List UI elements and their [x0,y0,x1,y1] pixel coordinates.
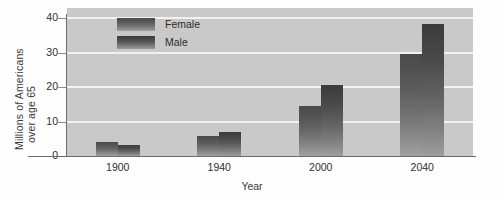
bar-female-2040 [400,54,422,156]
y-axis-tick-labels: 010203040 [32,0,58,165]
legend-label-female: Female [165,18,200,31]
bar-male-1900 [118,145,140,156]
y-axis-tick-mark [58,122,66,123]
x-axis-tick-label: 1940 [189,161,249,173]
x-axis-tick-label: 2000 [291,161,351,173]
legend-swatch-male [117,36,155,49]
x-axis-tick-label: 1900 [88,161,148,173]
bar-male-2040 [422,24,444,157]
bar-male-2000 [321,85,343,156]
y-axis-tick-label: 40 [36,12,58,23]
bar-chart-figure: Millions of Americans over age 65 010203… [0,0,504,200]
bar-male-1940 [219,132,241,156]
x-axis-tick-label: 2040 [392,161,452,173]
y-axis-tick-label: 20 [36,81,58,92]
y-axis-tick-mark [58,18,66,19]
legend-label-male: Male [165,36,188,49]
chart-legend: FemaleMale [117,18,257,62]
legend-swatch-female [117,18,155,31]
bar-female-2000 [299,106,321,156]
y-axis-tick-mark [58,87,66,88]
y-axis-tick-marks [58,0,66,165]
bar-female-1940 [197,136,219,156]
y-axis-tick-mark [58,53,66,54]
legend-item-male: Male [117,36,257,51]
y-axis-tick-label: 10 [36,116,58,127]
y-axis-title: Millions of Americans over age 65 [0,0,32,165]
x-axis-title: Year [0,180,504,192]
x-axis-line [28,156,476,157]
bar-female-1900 [96,142,118,156]
y-axis-title-line-1: Millions of Americans [13,48,25,150]
legend-item-female: Female [117,18,257,33]
y-axis-tick-label: 30 [36,47,58,58]
x-axis-tick-labels: 1900194020002040 [67,161,473,177]
